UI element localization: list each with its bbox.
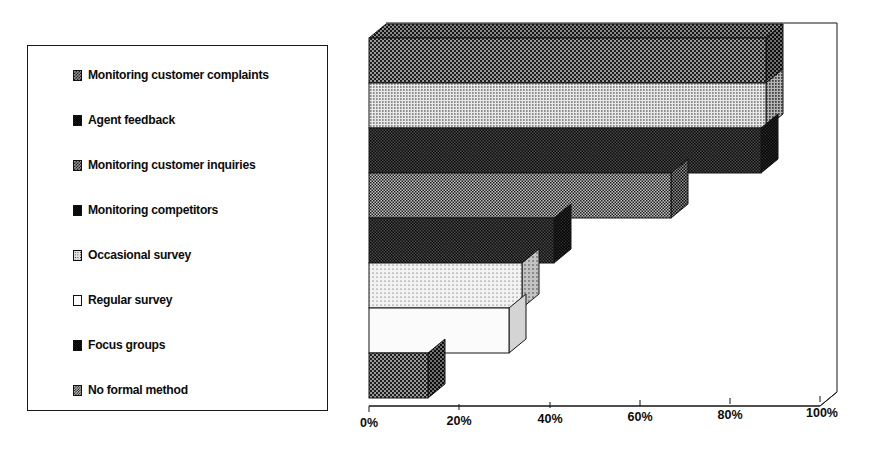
chart-legend: Monitoring customer complaints Agent fee… bbox=[27, 45, 328, 411]
legend-swatch-focus-groups bbox=[73, 340, 82, 351]
bar-monitoring-customer-complaints[interactable] bbox=[369, 24, 783, 83]
x-tick-label-60: 60% bbox=[627, 410, 652, 424]
legend-swatch-monitoring-customer-inquiries bbox=[73, 160, 82, 171]
legend-label-0: Monitoring customer complaints bbox=[88, 69, 269, 82]
chart-plot-area: 0% 20% 40% 60% 80% 100% bbox=[352, 8, 872, 454]
legend-item-3[interactable]: Monitoring competitors bbox=[73, 203, 222, 217]
legend-swatch-no-formal-method bbox=[73, 385, 82, 396]
legend-item-0[interactable]: Monitoring customer complaints bbox=[73, 68, 274, 82]
legend-swatch-monitoring-competitors bbox=[73, 205, 82, 216]
legend-label-5: Regular survey bbox=[88, 294, 172, 307]
chart-x-ticks bbox=[369, 396, 820, 412]
legend-swatch-regular-survey bbox=[73, 295, 82, 306]
legend-label-7: No formal method bbox=[88, 384, 188, 397]
chart-x-tick-labels: 0% 20% 40% 60% 80% 100% bbox=[360, 406, 838, 430]
legend-item-6[interactable]: Focus groups bbox=[73, 338, 168, 352]
x-tick-label-40: 40% bbox=[537, 412, 562, 426]
legend-swatch-agent-feedback bbox=[73, 115, 82, 126]
legend-item-2[interactable]: Monitoring customer inquiries bbox=[73, 158, 261, 172]
chart-axis-line bbox=[369, 392, 837, 406]
legend-label-2: Monitoring customer inquiries bbox=[88, 159, 255, 172]
legend-item-4[interactable]: Occasional survey bbox=[73, 248, 194, 262]
chart-screenshot: Monitoring customer complaints Agent fee… bbox=[0, 0, 884, 458]
x-tick-label-20: 20% bbox=[446, 414, 471, 428]
bar-chart-3d: 0% 20% 40% 60% 80% 100% bbox=[352, 8, 872, 454]
x-tick-label-100: 100% bbox=[806, 406, 838, 420]
legend-item-7[interactable]: No formal method bbox=[73, 383, 191, 397]
legend-label-6: Focus groups bbox=[88, 339, 165, 352]
x-tick-label-0: 0% bbox=[360, 416, 378, 430]
legend-label-3: Monitoring competitors bbox=[88, 204, 218, 217]
legend-label-4: Occasional survey bbox=[88, 249, 191, 262]
legend-item-5[interactable]: Regular survey bbox=[73, 293, 175, 307]
legend-label-1: Agent feedback bbox=[88, 114, 175, 127]
x-tick-label-80: 80% bbox=[717, 408, 742, 422]
legend-item-1[interactable]: Agent feedback bbox=[73, 113, 178, 127]
legend-swatch-occasional-survey bbox=[73, 250, 82, 261]
legend-swatch-monitoring-customer-complaints bbox=[73, 70, 82, 81]
